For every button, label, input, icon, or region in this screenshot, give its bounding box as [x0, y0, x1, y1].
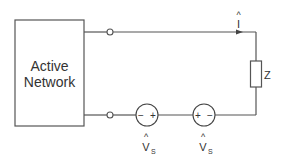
top-wire: [84, 29, 256, 35]
active-network-block: Active Network: [15, 20, 84, 126]
current-arrow-icon: [236, 30, 243, 35]
source-1-subscript: S: [151, 148, 156, 155]
voltage-source-1: − + ^ V S: [136, 104, 158, 155]
right-branch: Z: [251, 32, 272, 115]
impedance-box: [251, 61, 262, 87]
circuit-diagram: Active Network ^ I Z − + ^ V S: [0, 0, 284, 165]
source-2-symbol: V: [199, 141, 207, 153]
source-2-left-sign: +: [195, 110, 201, 121]
current-symbol: I: [237, 18, 240, 30]
source-1-right-sign: +: [150, 110, 156, 121]
source-1-left-sign: −: [138, 110, 144, 121]
network-label-line1: Active: [30, 58, 68, 74]
impedance-label: Z: [264, 69, 271, 81]
bottom-terminal: [107, 112, 113, 118]
source-2-right-sign: −: [207, 110, 213, 121]
source-1-symbol: V: [142, 141, 150, 153]
top-terminal: [107, 29, 113, 35]
voltage-source-2: + − ^ V S: [193, 104, 215, 155]
network-label-line2: Network: [24, 74, 76, 90]
bottom-wire: [84, 112, 256, 118]
current-label: ^ I: [236, 10, 241, 30]
source-2-subscript: S: [208, 148, 213, 155]
